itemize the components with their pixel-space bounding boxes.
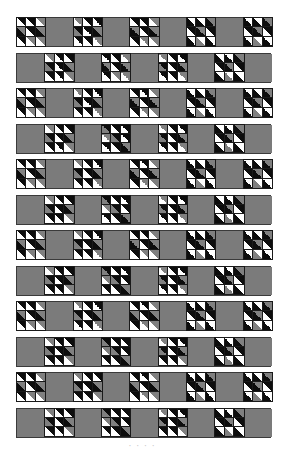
half-square-triangle (130, 160, 139, 169)
half-square-triangle (196, 382, 205, 391)
half-square-triangle (64, 427, 73, 436)
half-square-triangle (83, 302, 92, 311)
pieced-block (130, 373, 158, 401)
plain-block (187, 267, 215, 295)
half-square-triangle (178, 125, 187, 134)
half-square-triangle (178, 63, 187, 72)
pieced-block (244, 89, 272, 117)
half-square-triangle (74, 179, 83, 188)
half-square-triangle (244, 373, 253, 382)
half-square-triangle (102, 72, 111, 81)
half-square-triangle (130, 89, 139, 98)
half-square-triangle (93, 27, 102, 36)
half-square-triangle (26, 392, 35, 401)
half-square-triangle (196, 302, 205, 311)
pieced-block (17, 231, 45, 259)
pieced-block (130, 160, 158, 188)
half-square-triangle (215, 72, 224, 81)
half-square-triangle (187, 89, 196, 98)
plain-block (102, 89, 130, 117)
pieced-block (244, 231, 272, 259)
pieced-block (159, 196, 187, 224)
half-square-triangle (17, 27, 26, 36)
half-square-triangle (140, 321, 149, 330)
pieced-block (215, 267, 243, 295)
half-square-triangle (206, 108, 215, 117)
half-square-triangle (263, 231, 272, 240)
plain-block (45, 18, 73, 46)
half-square-triangle (244, 311, 253, 320)
half-square-triangle (83, 89, 92, 98)
pieced-block (215, 338, 243, 366)
plain-block (17, 125, 45, 153)
plain-block (159, 89, 187, 117)
half-square-triangle (74, 382, 83, 391)
plain-block (244, 125, 272, 153)
half-square-triangle (111, 356, 120, 365)
half-square-triangle (187, 108, 196, 117)
half-square-triangle (234, 276, 243, 285)
half-square-triangle (253, 392, 262, 401)
half-square-triangle (253, 98, 262, 107)
half-square-triangle (111, 409, 120, 418)
half-square-triangle (64, 338, 73, 347)
half-square-triangle (17, 98, 26, 107)
half-square-triangle (253, 231, 262, 240)
figure-caption: · · · · (0, 441, 284, 451)
pieced-block (45, 409, 73, 437)
plain-block (159, 231, 187, 259)
half-square-triangle (149, 89, 158, 98)
half-square-triangle (149, 311, 158, 320)
pieced-block (215, 196, 243, 224)
half-square-triangle (83, 108, 92, 117)
half-square-triangle (196, 179, 205, 188)
half-square-triangle (26, 231, 35, 240)
pieced-block (187, 373, 215, 401)
half-square-triangle (45, 276, 54, 285)
half-square-triangle (168, 72, 177, 81)
half-square-triangle (253, 169, 262, 178)
plain-block (74, 54, 102, 82)
half-square-triangle (74, 37, 83, 46)
half-square-triangle (196, 231, 205, 240)
pieced-block (159, 54, 187, 82)
half-square-triangle (26, 321, 35, 330)
plain-block (215, 160, 243, 188)
pieced-block (74, 231, 102, 259)
half-square-triangle (206, 179, 215, 188)
half-square-triangle (244, 18, 253, 27)
half-square-triangle (178, 418, 187, 427)
half-square-triangle (45, 409, 54, 418)
half-square-triangle (130, 37, 139, 46)
pieced-block (45, 125, 73, 153)
half-square-triangle (168, 63, 177, 72)
half-square-triangle (187, 169, 196, 178)
half-square-triangle (83, 373, 92, 382)
half-square-triangle (178, 214, 187, 223)
half-square-triangle (26, 250, 35, 259)
half-square-triangle (215, 134, 224, 143)
quilt-row (16, 230, 271, 260)
half-square-triangle (83, 392, 92, 401)
half-square-triangle (102, 427, 111, 436)
half-square-triangle (74, 321, 83, 330)
plain-block (130, 338, 158, 366)
half-square-triangle (111, 418, 120, 427)
half-square-triangle (225, 267, 234, 276)
half-square-triangle (196, 392, 205, 401)
half-square-triangle (196, 240, 205, 249)
half-square-triangle (253, 311, 262, 320)
half-square-triangle (178, 143, 187, 152)
half-square-triangle (93, 382, 102, 391)
half-square-triangle (17, 302, 26, 311)
half-square-triangle (159, 196, 168, 205)
half-square-triangle (196, 373, 205, 382)
plain-block (159, 302, 187, 330)
half-square-triangle (121, 214, 130, 223)
half-square-triangle (159, 409, 168, 418)
plain-block (244, 196, 272, 224)
half-square-triangle (83, 160, 92, 169)
half-square-triangle (130, 302, 139, 311)
half-square-triangle (187, 18, 196, 27)
half-square-triangle (140, 392, 149, 401)
